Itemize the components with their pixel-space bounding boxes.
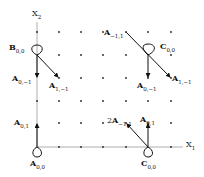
label-A01-left: A0,1 [14, 118, 29, 129]
y-axis-label: X2 [32, 10, 41, 20]
label-Am11-top: A−1,1 [104, 28, 124, 39]
label-A01-right: A0,1 [140, 115, 155, 126]
left-top-arrows [32, 45, 58, 77]
label-A1m1-right: A1,−1 [172, 74, 192, 85]
label-B00: B0,0 [9, 43, 25, 54]
label-A0m1-right: A0,−1 [137, 81, 157, 92]
left-bottom-arrows [33, 124, 42, 157]
label-C00-top: C0,0 [160, 42, 175, 53]
x-axis-label: X1 [186, 141, 195, 151]
label-A0m1-left: A0,−1 [12, 74, 32, 85]
diagram-canvas [0, 0, 204, 177]
label-A00-bottom: A0,0 [30, 159, 45, 170]
right-top-arrows [126, 32, 170, 77]
label-A1m1-left: A1,−1 [49, 81, 69, 92]
label-C00-bottom: C0,0 [141, 159, 156, 170]
label-2Am11: 2A−1,1 [107, 116, 132, 127]
right-bottom-arrows [127, 124, 153, 157]
